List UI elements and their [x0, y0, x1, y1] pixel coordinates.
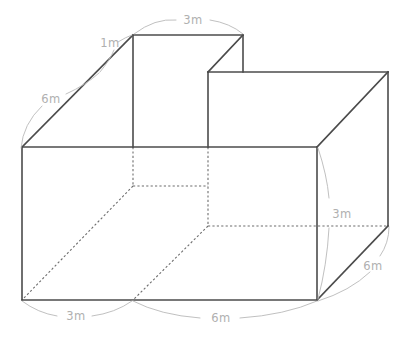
dimension-label-top-depth: 3m: [183, 13, 203, 27]
leader-arc-bottom-left-a: [22, 301, 57, 316]
leader-arc-top-right: [210, 20, 243, 34]
edge-notch-diagonal: [208, 35, 243, 72]
hidden-edge-diagonal-right: [133, 226, 208, 300]
leader-arc-bottom-right-b: [240, 301, 317, 318]
leader-arc-right-diagonal-lower: [318, 272, 370, 301]
dimension-label-left-diagonal: 6m: [41, 92, 61, 106]
figure-canvas: 3m 1m 6m 3m 6m 3m 6m: [0, 0, 410, 337]
hidden-edge-diagonal-left: [22, 186, 133, 300]
leader-arc-bottom-right-a: [133, 301, 200, 318]
leader-arc-top-left: [134, 20, 176, 34]
leader-arc-bottom-left-b: [92, 301, 132, 316]
dimension-label-right-diagonal: 6m: [363, 259, 383, 273]
dimension-label-right-height: 3m: [332, 207, 352, 221]
visible-edges-group: [22, 35, 388, 300]
dimension-label-bottom-left: 3m: [66, 309, 86, 323]
dimension-label-step-rise: 1m: [100, 36, 120, 50]
hidden-edges-group: [22, 147, 388, 300]
leader-arc-left-diagonal-upper: [66, 73, 99, 94]
dimension-labels-group: 3m 1m 6m 3m 6m 3m 6m: [41, 13, 383, 325]
leader-arc-right-diagonal-upper: [380, 227, 389, 256]
stepped-prism-diagram: 3m 1m 6m 3m 6m 3m 6m: [0, 0, 410, 337]
dimension-label-bottom-right: 6m: [211, 311, 231, 325]
edge-left-diagonal: [22, 35, 133, 147]
leader-arcs-group: [21, 20, 389, 318]
leader-arc-right-height-upper: [318, 148, 329, 198]
leader-arc-left-diagonal-lower: [21, 106, 42, 148]
edge-right-top-diagonal: [317, 72, 388, 147]
